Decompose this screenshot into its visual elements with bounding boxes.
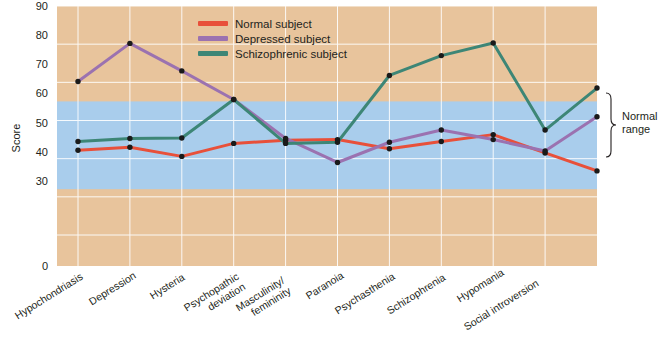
y-tick-0: 0	[8, 261, 48, 272]
y-tick-90: 90	[8, 1, 48, 12]
data-point	[127, 41, 132, 46]
y-tick-80: 80	[8, 30, 48, 41]
legend-swatch-depressed	[198, 36, 228, 41]
data-point	[335, 160, 340, 165]
data-point	[491, 40, 496, 45]
data-point	[439, 139, 444, 144]
data-point	[387, 146, 392, 151]
normal-range-label: Normal range	[622, 110, 662, 136]
data-point	[491, 132, 496, 137]
data-point	[231, 141, 236, 146]
y-tick-70: 70	[8, 59, 48, 70]
data-point	[75, 139, 80, 144]
data-point	[283, 141, 288, 146]
data-point	[231, 97, 236, 102]
data-point	[542, 127, 547, 132]
legend-label-normal: Normal subject	[235, 18, 312, 30]
legend-swatch-normal	[198, 21, 228, 26]
y-axis-title: Score	[10, 108, 22, 168]
normal-range-bracket	[606, 93, 616, 157]
data-point	[387, 73, 392, 78]
normal-range-label-line2: range	[622, 123, 662, 136]
data-point	[179, 135, 184, 140]
legend-label-schizophrenic: Schizophrenic subject	[235, 48, 347, 60]
data-point	[179, 68, 184, 73]
data-point	[75, 79, 80, 84]
data-point	[179, 154, 184, 159]
data-point	[439, 53, 444, 58]
data-point	[542, 148, 547, 153]
chart-legend: Normal subject Depressed subject Schizop…	[198, 16, 347, 61]
data-point	[127, 136, 132, 141]
data-point	[594, 168, 599, 173]
data-point	[387, 140, 392, 145]
data-point	[335, 140, 340, 145]
data-point	[594, 114, 599, 119]
data-point	[439, 127, 444, 132]
data-point	[127, 145, 132, 150]
normal-range-label-line1: Normal	[622, 110, 662, 123]
legend-label-depressed: Depressed subject	[235, 33, 330, 45]
data-point	[283, 136, 288, 141]
data-point	[491, 137, 496, 142]
legend-item-depressed: Depressed subject	[198, 31, 347, 46]
y-tick-60: 60	[8, 88, 48, 99]
y-tick-30: 30	[8, 176, 48, 187]
data-point	[594, 85, 599, 90]
legend-item-schizophrenic: Schizophrenic subject	[198, 46, 347, 61]
legend-item-normal: Normal subject	[198, 16, 347, 31]
legend-swatch-schizophrenic	[198, 51, 228, 56]
data-point	[75, 148, 80, 153]
